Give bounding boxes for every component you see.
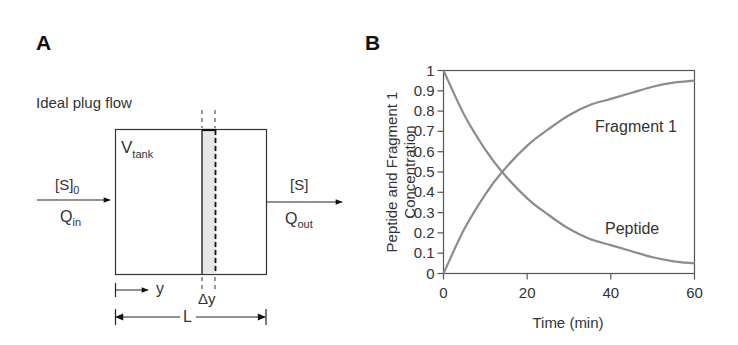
y-tick-label: 0.6 [414, 143, 435, 160]
x-axis-title: Time (min) [532, 314, 603, 331]
y-tick-label: 0.1 [414, 244, 435, 261]
shaded-slice [202, 130, 216, 274]
outlet-concentration-label: [S] [290, 176, 308, 193]
peptide-label: Peptide [605, 220, 659, 237]
fragment-1-curve [444, 81, 695, 274]
x-tick-label: 40 [602, 284, 619, 301]
y-tick-label: 0.9 [414, 82, 435, 99]
y-tick-label: 0.7 [414, 122, 435, 139]
y-tick-label: 0.8 [414, 102, 435, 119]
y-tick-label: 0.2 [414, 224, 435, 241]
panel-b: B Peptide and Fragment 1 Concentration 0… [365, 31, 703, 331]
inlet-flow-label: Qin [60, 208, 81, 228]
figure: A Ideal plug flow Vtank [S]0 Qin [S] Qou… [0, 0, 738, 345]
y-tick-label: 1 [426, 62, 434, 79]
position-label: y [156, 280, 164, 297]
panel-a-label: A [36, 31, 51, 54]
outlet-flow-label: Qout [285, 210, 313, 230]
x-axis-ticks: 0204060 [439, 274, 703, 301]
y-tick-label: 0.4 [414, 183, 435, 200]
y-axis-ticks: 00.10.20.30.40.50.60.70.80.91 [414, 62, 444, 282]
y-axis-title-line1: Peptide and Fragment 1 [383, 92, 400, 253]
y-tick-label: 0 [426, 265, 434, 282]
differential-element [202, 110, 216, 290]
panel-a: A Ideal plug flow Vtank [S]0 Qin [S] Qou… [36, 31, 342, 325]
tank-volume-label: Vtank [121, 138, 154, 160]
length-label: L [183, 308, 192, 325]
x-tick-label: 20 [519, 284, 536, 301]
panel-b-label: B [365, 31, 380, 54]
element-width-label: Δy [198, 290, 216, 307]
plot-frame [444, 71, 695, 274]
y-tick-label: 0.5 [414, 163, 435, 180]
inlet-concentration-label: [S]0 [55, 176, 79, 196]
x-tick-label: 0 [439, 284, 447, 301]
x-tick-label: 60 [686, 284, 703, 301]
y-tick-label: 0.3 [414, 204, 435, 221]
fragment-1-label: Fragment 1 [595, 118, 677, 135]
plug-flow-title: Ideal plug flow [36, 94, 132, 111]
